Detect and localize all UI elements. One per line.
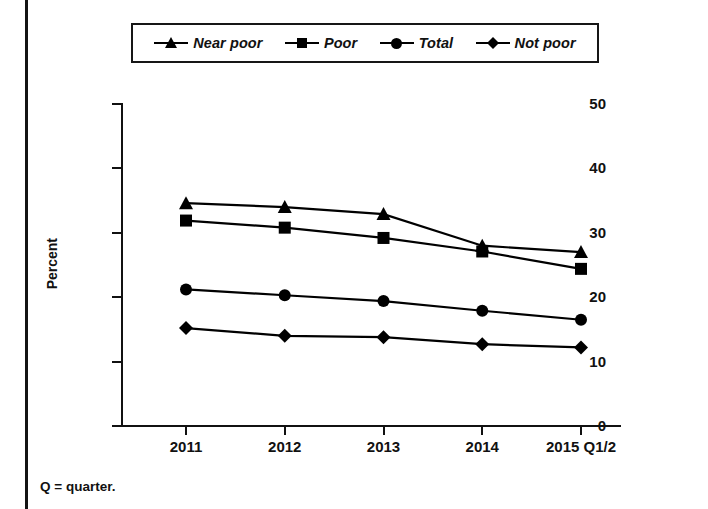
legend-label: Poor [324,35,357,51]
y-tick [112,361,121,363]
y-tick [112,103,121,105]
page-left-rule [25,0,28,509]
legend-label: Not poor [515,35,576,51]
series-poor [180,215,587,275]
legend-item-not-poor: Not poor [476,35,576,51]
y-tick-label: 30 [566,224,606,241]
series-line [186,221,581,269]
y-axis-title: Percent [44,187,60,238]
series-not-poor [179,321,588,354]
circle-marker [279,289,291,301]
y-tick [112,296,121,298]
circle-marker [476,305,488,317]
diamond-marker [278,329,292,343]
x-tick [284,426,286,435]
series-total [180,283,587,325]
diamond-marker [179,321,193,335]
legend-label: Near poor [193,35,262,51]
diamond-marker [475,337,489,351]
chart-legend: Near poor Poor Total [131,23,599,63]
triangle-marker-icon [154,35,188,51]
x-tick-label: 2013 [367,438,400,455]
y-tick-label: 0 [566,417,606,434]
diamond-marker-icon [476,35,510,51]
square-marker [180,215,192,227]
square-marker [476,245,488,257]
x-tick-label: 2014 [466,438,499,455]
legend-item-total: Total [380,35,454,51]
legend-item-poor: Poor [285,35,357,51]
series-group [121,104,621,426]
x-tick [383,426,385,435]
circle-marker-icon [380,35,414,51]
y-tick-label: 50 [566,95,606,112]
x-tick-label: 2011 [170,438,203,455]
y-tick-label: 10 [566,353,606,370]
circle-marker [378,295,390,307]
series-near-poor [179,196,588,258]
y-tick [112,425,121,427]
footnote: Q = quarter. [40,479,115,494]
plot-area: 01020304050 20112012201320142015 Q1/2 [121,104,621,426]
square-marker [575,263,587,275]
chart-figure: Near poor Poor Total [0,0,708,509]
circle-marker [180,283,192,295]
y-tick [112,167,121,169]
x-tick [481,426,483,435]
square-marker-icon [285,35,319,51]
x-tick [185,426,187,435]
diamond-marker [377,330,391,344]
legend-item-near-poor: Near poor [154,35,262,51]
y-axis-title-text: Percent [44,238,60,289]
y-tick-label: 20 [566,288,606,305]
circle-marker [575,314,587,326]
y-tick-label: 40 [566,159,606,176]
x-tick [580,426,582,435]
x-tick-label: 2012 [268,438,301,455]
square-marker [378,232,390,244]
y-tick [112,232,121,234]
x-tick-label: 2015 Q1/2 [546,438,616,455]
square-marker [279,222,291,234]
legend-label: Total [419,35,454,51]
